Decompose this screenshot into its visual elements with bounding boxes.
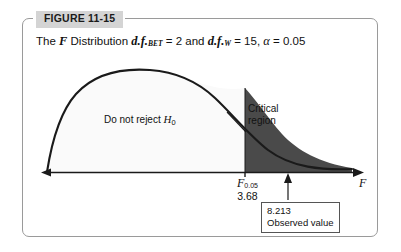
observed-value-number: 8.213 xyxy=(267,205,334,217)
critical-value-number: 3.68 xyxy=(237,190,258,202)
axis-label-f: F xyxy=(359,177,366,191)
observed-value-arrowhead xyxy=(284,173,292,183)
figure-container: FIGURE 11-15 The F Distribution d.f.BET … xyxy=(0,0,401,252)
do-not-reject-label: Do not reject H0 xyxy=(104,113,176,127)
axis-left-arrowhead xyxy=(41,169,51,177)
observed-value-callout: 8.213 Observed value xyxy=(261,202,340,233)
observed-value-caption: Observed value xyxy=(267,217,334,229)
critical-value-label: F0.05 3.68 xyxy=(237,177,258,202)
null-hypothesis-subscript: 0 xyxy=(171,118,175,127)
critical-region-line-1: Critical xyxy=(248,103,279,114)
critical-value-alpha-subscript: 0.05 xyxy=(244,182,258,189)
critical-region-shape xyxy=(245,88,352,172)
critical-region-line-2: region xyxy=(248,115,276,126)
f-distribution-plot xyxy=(0,0,401,252)
critical-region-label: Critical region xyxy=(248,103,279,126)
do-not-reject-text: Do not reject xyxy=(104,114,163,125)
